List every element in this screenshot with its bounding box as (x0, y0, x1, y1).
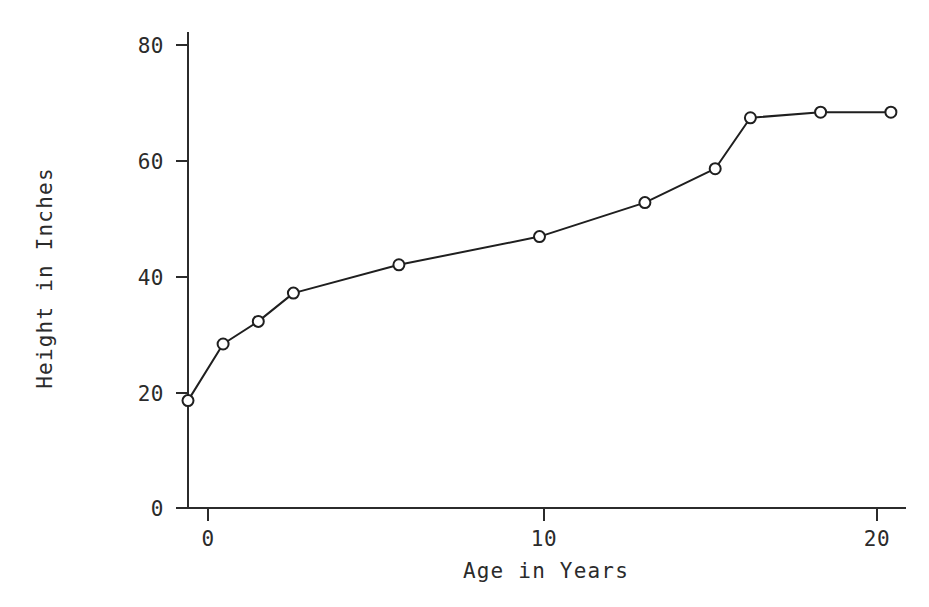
y-axis-tick-labels: 80 60 40 20 0 (138, 34, 164, 521)
y-tick-label-80: 80 (138, 34, 164, 58)
y-axis-ticks (176, 45, 188, 508)
data-point (534, 231, 545, 242)
x-tick-label-20: 20 (864, 527, 890, 551)
y-tick-label-60: 60 (138, 150, 164, 174)
line-chart-plot: 80 60 40 20 0 0 10 20 Age in Years Heigh… (0, 0, 929, 607)
data-point (815, 107, 826, 118)
data-point (710, 163, 721, 174)
data-point (639, 197, 650, 208)
data-point (253, 316, 264, 327)
data-point (885, 107, 896, 118)
data-markers-group (183, 107, 897, 406)
y-tick-label-20: 20 (138, 382, 164, 406)
data-point (393, 259, 404, 270)
chart-figure: 80 60 40 20 0 0 10 20 Age in Years Heigh… (0, 0, 929, 607)
data-series-height (183, 107, 897, 406)
data-point (288, 288, 299, 299)
data-point (745, 112, 756, 123)
x-tick-label-0: 0 (201, 527, 214, 551)
y-tick-label-0: 0 (151, 497, 164, 521)
y-tick-label-40: 40 (138, 266, 164, 290)
x-tick-label-10: 10 (531, 527, 557, 551)
x-axis-title: Age in Years (463, 559, 629, 583)
axes-group (188, 33, 905, 508)
data-line-height (188, 112, 891, 400)
data-point (183, 395, 194, 406)
y-axis-title: Height in Inches (33, 167, 57, 389)
x-axis-ticks (208, 508, 877, 521)
data-point (218, 339, 229, 350)
x-axis-tick-labels: 0 10 20 (201, 527, 890, 551)
